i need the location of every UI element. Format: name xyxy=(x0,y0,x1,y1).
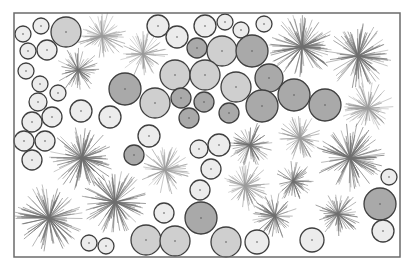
center-dot xyxy=(46,49,48,51)
center-dot xyxy=(145,239,147,241)
center-dot xyxy=(198,148,200,150)
circle-node xyxy=(35,131,55,151)
circle-node xyxy=(364,188,396,220)
starburst xyxy=(325,23,391,88)
center-dot xyxy=(240,29,242,31)
circle-node xyxy=(219,103,239,123)
starburst xyxy=(343,83,393,130)
center-dot xyxy=(31,159,33,161)
circle-node xyxy=(51,17,81,47)
center-dot xyxy=(27,50,29,52)
starburst xyxy=(78,13,126,58)
circle-node xyxy=(81,235,97,251)
starburst xyxy=(279,116,320,159)
center-dot xyxy=(31,121,33,123)
circle-node xyxy=(256,16,272,32)
starburst xyxy=(49,128,111,190)
starburst xyxy=(142,147,189,194)
center-dot xyxy=(203,101,205,103)
starburst xyxy=(58,48,99,90)
circle-node xyxy=(33,18,49,34)
center-dot xyxy=(200,217,202,219)
circle-node xyxy=(22,112,42,132)
center-dot xyxy=(174,74,176,76)
circle-node xyxy=(42,107,62,127)
circle-node xyxy=(22,150,42,170)
circle-node xyxy=(187,38,207,58)
circle-node xyxy=(236,35,268,67)
center-dot xyxy=(210,168,212,170)
center-dot xyxy=(235,86,237,88)
center-dot xyxy=(80,110,82,112)
circle-node xyxy=(160,226,190,256)
circle-node xyxy=(18,63,34,79)
circle-node xyxy=(98,238,114,254)
circle-node xyxy=(99,106,121,128)
center-dot xyxy=(293,94,295,96)
center-dot xyxy=(124,88,126,90)
center-dot xyxy=(204,74,206,76)
circle-node xyxy=(246,90,278,122)
center-dot xyxy=(256,241,258,243)
center-dot xyxy=(204,25,206,27)
circle-node xyxy=(160,60,190,90)
center-dot xyxy=(263,23,265,25)
circle-node xyxy=(309,89,341,121)
circle-node xyxy=(194,92,214,112)
center-dot xyxy=(388,176,390,178)
starburst xyxy=(316,195,360,236)
circle-node xyxy=(185,202,217,234)
center-dot xyxy=(188,117,190,119)
center-dot xyxy=(22,33,24,35)
center-dot xyxy=(37,101,39,103)
circle-node xyxy=(211,227,241,257)
center-dot xyxy=(44,140,46,142)
circle-node xyxy=(131,225,161,255)
circle-node xyxy=(70,100,92,122)
circle-node xyxy=(147,15,169,37)
center-dot xyxy=(225,241,227,243)
circle-node xyxy=(140,88,170,118)
center-dot xyxy=(109,116,111,118)
center-dot xyxy=(23,140,25,142)
center-dot xyxy=(379,203,381,205)
center-dot xyxy=(88,242,90,244)
circle-node xyxy=(255,64,283,92)
center-dot xyxy=(180,97,182,99)
circle-node xyxy=(124,145,144,165)
starburst xyxy=(224,162,269,211)
circle-node xyxy=(32,76,48,92)
circle-node xyxy=(372,220,394,242)
starburst xyxy=(15,185,83,252)
circle-node xyxy=(20,43,36,59)
starburst xyxy=(317,124,385,192)
center-dot xyxy=(382,230,384,232)
circle-node xyxy=(300,228,324,252)
center-dot xyxy=(176,36,178,38)
starburst xyxy=(82,171,146,232)
center-dot xyxy=(311,239,313,241)
circle-node xyxy=(201,159,221,179)
center-dot xyxy=(40,25,42,27)
center-dot xyxy=(65,31,67,33)
circle-node xyxy=(190,180,210,200)
center-dot xyxy=(154,102,156,104)
circle-node xyxy=(15,26,31,42)
circle-node xyxy=(208,134,230,156)
circle-node xyxy=(171,88,191,108)
circle-node xyxy=(194,15,216,37)
circle-packing-figure xyxy=(0,0,411,269)
center-dot xyxy=(268,77,270,79)
center-dot xyxy=(218,144,220,146)
circle-node xyxy=(37,40,57,60)
center-dot xyxy=(199,189,201,191)
circle-node xyxy=(50,85,66,101)
center-dot xyxy=(57,92,59,94)
center-dot xyxy=(105,245,107,247)
center-dot xyxy=(228,112,230,114)
center-dot xyxy=(25,70,27,72)
circle-node xyxy=(14,131,34,151)
center-dot xyxy=(196,47,198,49)
center-dot xyxy=(324,104,326,106)
center-dot xyxy=(251,50,253,52)
